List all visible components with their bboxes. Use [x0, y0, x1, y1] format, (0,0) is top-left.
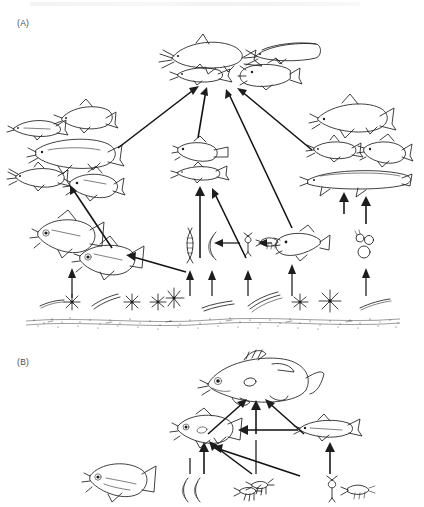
organism-copepod — [244, 233, 252, 256]
panel-b-diagram — [0, 348, 424, 507]
algae-filament-5 — [360, 299, 391, 310]
sediment-band — [26, 317, 400, 329]
organism-lower-cichlid-1 — [30, 210, 104, 258]
diatom-star-3 — [150, 294, 166, 310]
diatom-star-2 — [124, 294, 140, 310]
organism-mid-right-minnow — [294, 414, 362, 441]
organism-snail-cluster — [355, 230, 374, 258]
diatom-star-4 — [166, 288, 184, 308]
organism-left-cichlid — [63, 166, 125, 201]
organism-center-minnow — [171, 162, 229, 183]
figure-canvas: (A) (B) — [0, 0, 424, 507]
organism-worm-b1 — [182, 478, 188, 502]
organism-left-chub — [54, 99, 118, 133]
organism-copepod-b — [327, 476, 337, 502]
organism-right-cichlid — [357, 134, 413, 167]
organism-insect-larva — [187, 228, 194, 263]
panel-b-arrows — [190, 399, 335, 476]
organism-cichlid-top — [238, 58, 302, 90]
organism-mayfly-nymph-1 — [246, 479, 274, 495]
organism-right-catfish — [306, 135, 363, 162]
panel-a-diagram — [0, 0, 424, 340]
organism-left-minnow — [7, 120, 68, 140]
organism-right-chub — [309, 94, 396, 138]
algae-filament-4 — [248, 292, 282, 312]
algae-filament-3 — [202, 301, 234, 311]
organism-worm-b2 — [194, 478, 200, 502]
algae-filament-2 — [92, 294, 120, 309]
organism-shrimp-b — [341, 485, 375, 499]
organism-right-eel — [300, 171, 412, 197]
organism-apex-bass — [198, 350, 324, 405]
organism-lower-cichlid-3 — [273, 225, 330, 261]
organism-worm — [209, 232, 217, 260]
diatom-star-1 — [64, 294, 80, 310]
organism-base-cichlid — [82, 464, 156, 502]
diatom-star-5 — [292, 294, 308, 310]
algae-filament-1 — [40, 300, 64, 308]
diatom-star-6 — [319, 290, 341, 312]
organism-center-cichlid — [172, 136, 228, 161]
organism-mayfly-nymph-2 — [234, 485, 262, 501]
